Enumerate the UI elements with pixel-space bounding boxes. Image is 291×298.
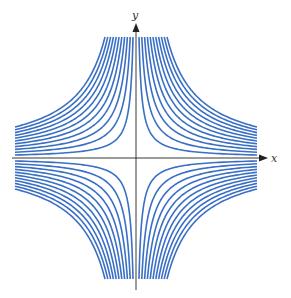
y-axis-arrowhead	[133, 23, 140, 32]
hyperbola-curve-qII	[15, 37, 125, 147]
x-axis-label: x	[271, 152, 278, 165]
hyperbola-curve-qI	[164, 37, 257, 130]
x-axis-arrowhead	[259, 155, 268, 162]
hyperbola-curve-qIII	[15, 169, 125, 279]
y-axis-label: y	[131, 9, 139, 22]
hyperbola-curve-qIII	[15, 186, 108, 279]
hyperbola-family-diagram: x y	[0, 0, 291, 298]
hyperbola-curve-qIV	[147, 169, 257, 279]
hyperbola-curve-qIII	[15, 183, 111, 279]
hyperbola-curve-qII	[15, 37, 111, 133]
hyperbola-curve-qII	[15, 37, 108, 130]
hyperbola-curve-qI	[147, 37, 257, 147]
hyperbola-curve-qI	[161, 37, 257, 133]
hyperbola-curve-qIV	[164, 186, 257, 279]
hyperbola-curve-qIV	[161, 183, 257, 279]
